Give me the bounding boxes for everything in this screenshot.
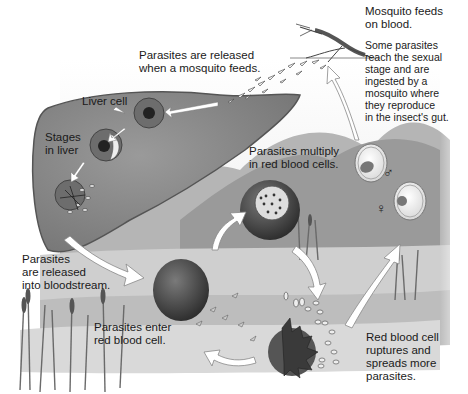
label-line: mosquito where — [365, 87, 449, 99]
label-line: Liver cell — [82, 95, 127, 108]
label-line: they reproduce — [365, 99, 449, 111]
male-symbol-icon: ♂ — [383, 164, 394, 180]
label-line: spreads more — [366, 357, 439, 370]
label-line: parasites. — [366, 370, 439, 383]
label-stages-in-liver: Stages in liver — [45, 131, 81, 157]
label-line: ingested by a — [365, 75, 449, 87]
label-line: Parasites are released — [139, 49, 260, 62]
label-line: Stages — [45, 131, 81, 144]
label-line: Red blood cell — [366, 331, 439, 344]
label-line: stage and are — [365, 63, 449, 75]
label-line: Parasites enter — [94, 321, 171, 334]
label-line: in liver — [45, 144, 81, 157]
malaria-life-cycle-diagram: Mosquito feeds on blood. Some parasites … — [0, 0, 468, 394]
label-line: are released — [22, 266, 110, 279]
label-line: on blood. — [365, 18, 443, 31]
label-line: ruptures and — [366, 344, 439, 357]
infected-red-blood-cell — [240, 180, 300, 240]
label-enter-rbc: Parasites enter red blood cell. — [94, 321, 171, 347]
label-released-bloodstream: Parasites are released into bloodstream. — [22, 253, 110, 292]
label-mosquito-feeds: Mosquito feeds on blood. — [365, 5, 443, 31]
label-line: reach the sexual — [365, 51, 449, 63]
label-line: when a mosquito feeds. — [139, 62, 260, 75]
label-line: in red blood cells. — [249, 158, 339, 171]
label-line: Mosquito feeds — [365, 5, 443, 18]
label-rupture: Red blood cell ruptures and spreads more… — [366, 331, 439, 383]
label-line: Parasites multiply — [249, 145, 339, 158]
label-sexual-stage: Some parasites reach the sexual stage an… — [365, 39, 449, 123]
female-symbol-icon: ♀ — [376, 200, 387, 216]
label-released-mosquito: Parasites are released when a mosquito f… — [139, 49, 260, 75]
label-line: red blood cell. — [94, 334, 171, 347]
red-blood-cell — [153, 259, 209, 321]
label-line: Some parasites — [365, 39, 449, 51]
label-line: into bloodstream. — [22, 279, 110, 292]
label-line: in the insect's gut. — [365, 111, 449, 123]
label-multiply: Parasites multiply in red blood cells. — [249, 145, 339, 171]
label-liver-cell: Liver cell — [82, 95, 127, 108]
label-line: Parasites — [22, 253, 110, 266]
